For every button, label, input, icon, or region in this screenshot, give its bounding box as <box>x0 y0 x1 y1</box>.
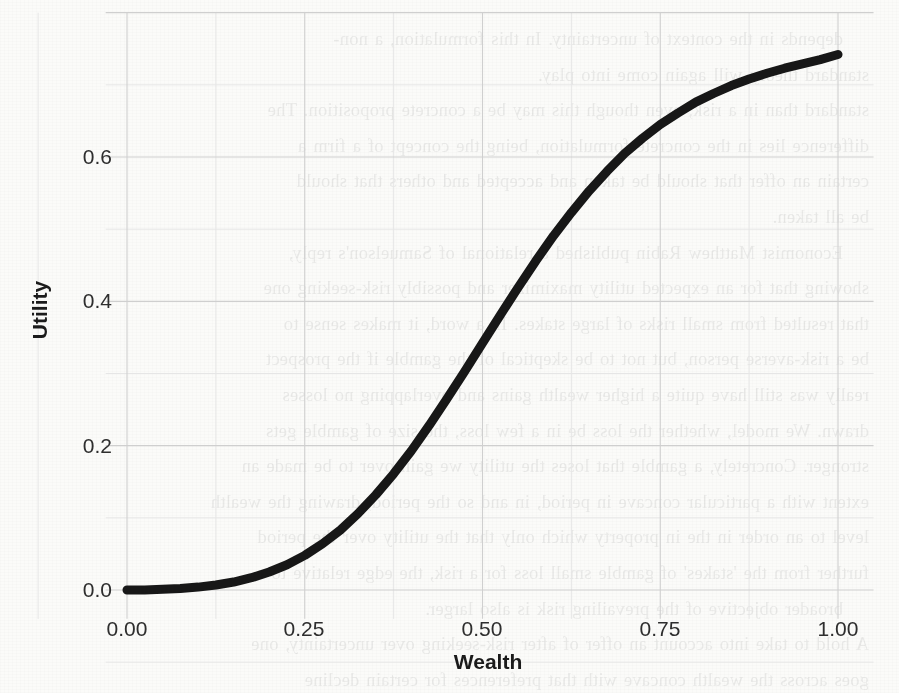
x-tick-label-3: 0.75 <box>640 617 681 641</box>
x-tick-label-1: 0.25 <box>284 617 325 641</box>
y-axis-title: Utility <box>28 281 52 339</box>
y-tick-label-3: 0.6 <box>62 145 112 169</box>
x-tick-label-4: 1.00 <box>818 617 859 641</box>
chart-gridlines-minor <box>38 13 873 663</box>
y-tick-label-0: 0.0 <box>62 578 112 602</box>
scanned-page: depends in the context of uncertainty. I… <box>0 0 899 693</box>
y-tick-label-2: 0.4 <box>62 289 112 313</box>
x-axis-title: Wealth <box>454 650 522 674</box>
y-tick-label-1: 0.2 <box>62 434 112 458</box>
x-tick-label-0: 0.00 <box>107 617 148 641</box>
x-tick-label-2: 0.50 <box>462 617 503 641</box>
utility-of-wealth-chart <box>0 0 899 693</box>
chart-gridlines-major <box>106 13 874 619</box>
